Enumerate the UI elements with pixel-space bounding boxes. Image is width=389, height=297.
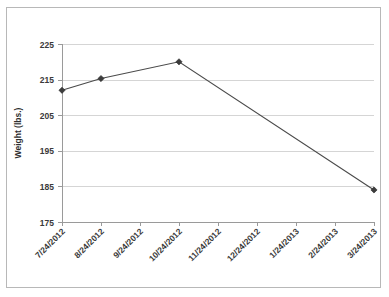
weight-line-chart: 1751851952052152257/24/20128/24/20129/24…	[7, 8, 382, 289]
chart-frame: 1751851952052152257/24/20128/24/20129/24…	[6, 7, 381, 288]
series-line-weight	[62, 62, 374, 190]
data-point-marker	[59, 87, 65, 93]
x-axis-tick-label: 9/24/2012	[111, 226, 145, 260]
chart-plot-area: 1751851952052152257/24/20128/24/20129/24…	[7, 8, 382, 289]
y-axis-tick-label: 205	[40, 111, 54, 121]
x-axis-tick-label: 11/24/2012	[186, 226, 223, 263]
x-axis-tick-label: 2/24/2013	[306, 226, 340, 260]
x-axis-tick-label: 1/24/2013	[267, 226, 301, 260]
y-axis-title: Weight (lbs.)	[13, 107, 23, 158]
x-axis-tick-label: 8/24/2012	[72, 226, 106, 260]
data-point-marker	[98, 75, 104, 81]
y-axis-tick-label: 175	[40, 218, 54, 228]
data-point-marker	[371, 187, 377, 193]
x-axis-tick-label: 7/24/2012	[33, 226, 67, 260]
y-axis-tick-label: 195	[40, 146, 54, 156]
data-point-marker	[176, 59, 182, 65]
y-axis-tick-label: 225	[40, 40, 54, 50]
y-axis-tick-label: 185	[40, 182, 54, 192]
x-axis-tick-label: 12/24/2012	[225, 226, 262, 263]
x-axis-tick-label: 3/24/2013	[345, 226, 379, 260]
y-axis-tick-label: 215	[40, 75, 54, 85]
x-axis-tick-label: 10/24/2012	[147, 226, 184, 263]
